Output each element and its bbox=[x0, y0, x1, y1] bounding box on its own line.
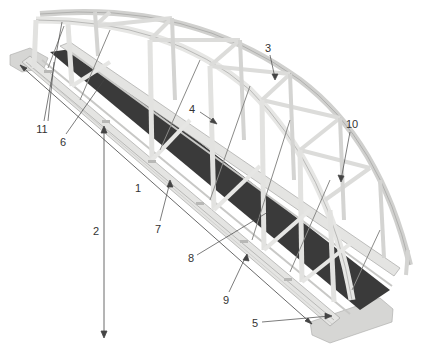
callout-4: 4 bbox=[189, 104, 195, 115]
callout-10: 10 bbox=[346, 119, 358, 130]
bridge-diagram: 1 2 3 4 5 6 7 8 9 10 11 bbox=[0, 0, 427, 362]
callout-5: 5 bbox=[252, 318, 258, 329]
dimension-arrow-span bbox=[20, 65, 312, 324]
callout-7: 7 bbox=[155, 224, 161, 235]
callout-11: 11 bbox=[36, 124, 47, 135]
dimension-arrow-clearance bbox=[101, 126, 107, 338]
bridge-deck bbox=[50, 48, 390, 310]
callout-6: 6 bbox=[60, 137, 66, 148]
callout-1: 1 bbox=[135, 183, 141, 194]
callout-3: 3 bbox=[265, 43, 271, 54]
callout-2: 2 bbox=[93, 226, 99, 237]
callout-8: 8 bbox=[188, 253, 194, 264]
callout-9: 9 bbox=[223, 295, 229, 306]
bridge-illustration bbox=[0, 0, 427, 362]
